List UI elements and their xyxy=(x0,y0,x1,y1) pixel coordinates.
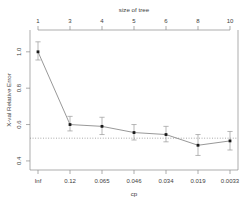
x-tick-label: 0.12 xyxy=(64,178,76,184)
y-tick-label: 1.0 xyxy=(16,47,22,56)
y-tick-label: 0.4 xyxy=(16,156,22,165)
x-axis-tick-labels: Inf0.120.0650.0460.0340.0190.0033 xyxy=(35,178,240,184)
x-axis-title: cp xyxy=(131,190,138,197)
x-tick-label: 0.034 xyxy=(158,178,174,184)
y-axis-title: X-val Relative Error xyxy=(5,73,12,127)
x-tick-label: 0.019 xyxy=(190,178,206,184)
y-axis-tick-labels: 1.00.80.60.4 xyxy=(16,47,22,165)
y-tick-label: 0.6 xyxy=(16,120,22,129)
top-tick-label: 3 xyxy=(68,18,72,24)
top-tick-label: 10 xyxy=(227,18,234,24)
top-axis-title: size of tree xyxy=(119,6,150,13)
x-tick-label: 0.046 xyxy=(126,178,142,184)
data-point xyxy=(133,131,136,134)
top-axis-tick-labels: 13456810 xyxy=(36,18,234,24)
data-point xyxy=(165,133,168,136)
data-points xyxy=(37,50,232,146)
data-point xyxy=(197,144,200,147)
plot-frame xyxy=(30,30,238,170)
top-tick-label: 5 xyxy=(132,18,136,24)
y-tick-label: 0.8 xyxy=(16,83,22,92)
data-point xyxy=(101,125,104,128)
bottom-axis: Inf0.120.0650.0460.0340.0190.0033 cp xyxy=(35,170,240,197)
top-tick-label: 8 xyxy=(196,18,200,24)
top-tick-label: 6 xyxy=(164,18,168,24)
top-axis: 13456810 size of tree xyxy=(36,6,234,30)
x-tick-label: Inf xyxy=(35,178,42,184)
top-tick-label: 1 xyxy=(36,18,40,24)
top-axis-ticks xyxy=(38,26,230,30)
x-tick-label: 0.065 xyxy=(94,178,110,184)
x-axis-ticks xyxy=(38,170,230,174)
data-point xyxy=(229,140,232,143)
data-point xyxy=(37,50,40,53)
top-tick-label: 4 xyxy=(100,18,104,24)
y-axis: 1.00.80.60.4 X-val Relative Error xyxy=(5,47,30,165)
plot-canvas: 13456810 size of tree 1.00.80.60.4 X-val… xyxy=(0,0,248,201)
y-axis-ticks xyxy=(26,52,30,161)
data-point xyxy=(69,123,72,126)
x-tick-label: 0.0033 xyxy=(221,178,240,184)
error-bars xyxy=(35,42,232,156)
cp-plot-svg: 13456810 size of tree 1.00.80.60.4 X-val… xyxy=(0,0,248,201)
data-layer xyxy=(35,42,232,156)
